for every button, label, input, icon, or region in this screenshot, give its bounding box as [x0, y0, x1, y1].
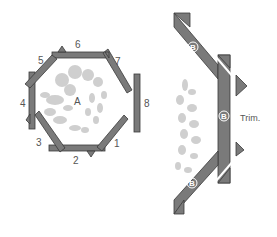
piece-label-6: 6 [75, 39, 81, 50]
corner-tab [87, 151, 95, 157]
diagram-canvas: A 1 2 3 4 5 6 7 8 [0, 0, 277, 237]
corner-tab [26, 114, 30, 124]
svg-text:B: B [190, 43, 196, 52]
corner-tab [58, 46, 66, 52]
svg-text:B: B [221, 112, 227, 121]
floral-pattern-detail [175, 79, 201, 173]
trim-wedge-bottom [236, 142, 244, 156]
center-label-a: A [74, 96, 81, 107]
piece-label-7: 7 [115, 56, 121, 67]
piece-label-3: 3 [36, 137, 42, 148]
octagon-assembly: A 1 2 3 4 5 6 7 8 [20, 39, 150, 166]
strip-b-upper [174, 13, 218, 79]
trim-label: Trim. [240, 113, 260, 123]
frame-piece-8 [134, 74, 140, 132]
piece-label-4: 4 [20, 98, 26, 109]
svg-text:B: B [189, 179, 195, 188]
frame-piece-6 [52, 52, 108, 58]
trim-wedge-top [236, 75, 247, 96]
frame-piece-1 [97, 115, 128, 151]
piece-label-1: 1 [114, 138, 120, 149]
piece-label-5: 5 [38, 55, 44, 66]
piece-label-8: 8 [144, 98, 150, 109]
trim-detail: B B B Trim. [174, 13, 260, 214]
piece-label-2: 2 [73, 155, 79, 166]
